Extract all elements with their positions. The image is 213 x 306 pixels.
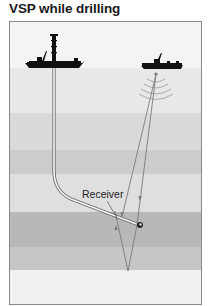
receiver-icon xyxy=(137,222,143,228)
vsp-diagram: Receiver xyxy=(9,21,202,305)
rock-layer-6 xyxy=(9,270,202,305)
rock-layer-2 xyxy=(9,150,202,174)
rock-layer-4 xyxy=(9,212,202,247)
diagram-title: VSP while drilling xyxy=(9,1,120,16)
diagram-frame: Receiver xyxy=(9,21,202,306)
rock-layer-5 xyxy=(9,247,202,270)
rock-layer-1 xyxy=(9,113,202,150)
sea-layer xyxy=(9,68,202,113)
receiver-label: Receiver xyxy=(82,188,124,200)
